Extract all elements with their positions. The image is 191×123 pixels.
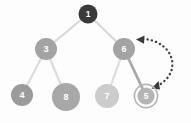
tree-node-5[interactable]: 5 [134,84,157,107]
tree-node-1[interactable]: 1 [79,5,98,24]
swap-arrowhead-bottom-icon [152,81,161,90]
swap-arc-path [143,39,172,86]
tree-node-6[interactable]: 6 [113,38,135,60]
node-label-6: 6 [121,44,126,54]
node-label-4: 4 [19,90,24,100]
binary-tree-diagram: 1 3 6 4 8 [0,0,191,123]
tree-nodes: 1 3 6 4 8 [11,5,158,112]
tree-node-7[interactable]: 7 [95,84,119,108]
node-label-5: 5 [144,91,149,101]
swap-arrowhead-top-icon [136,36,145,44]
node-label-8: 8 [63,92,68,102]
node-label-3: 3 [43,44,48,54]
swap-arc-annotation [136,36,172,90]
node-label-1: 1 [86,9,91,19]
node-label-7: 7 [104,91,109,101]
tree-node-8[interactable]: 8 [52,83,80,111]
tree-node-3[interactable]: 3 [35,38,57,60]
tree-canvas: 1 3 6 4 8 [0,0,191,123]
tree-node-4[interactable]: 4 [11,84,33,106]
